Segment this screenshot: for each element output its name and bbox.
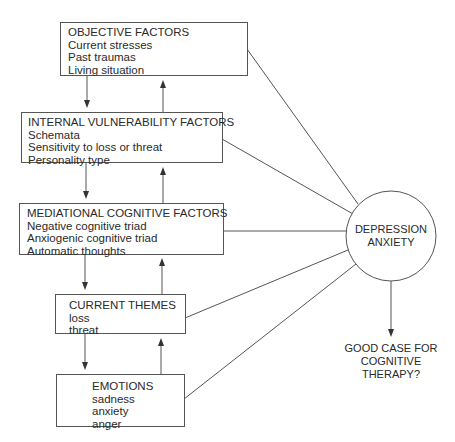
box-item: anxiety [92, 405, 184, 418]
box-current-themes: CURRENT THEMES loss threat [55, 294, 186, 334]
box-item: sadness [92, 393, 184, 406]
line-objective-to-center [247, 49, 358, 204]
box-objective-factors: OBJECTIVE FACTORS Current stresses Past … [60, 22, 248, 76]
box-item: Automatic thoughts [27, 245, 223, 258]
center-label: DEPRESSION ANXIETY [346, 223, 436, 249]
box-item: Sensitivity to loss or threat [28, 141, 222, 154]
box-item: Personality type [28, 154, 222, 167]
outcome-line1: GOOD CASE FOR [336, 342, 446, 355]
box-title: EMOTIONS [92, 380, 184, 393]
center-label-line2: ANXIETY [346, 236, 436, 249]
box-item: anger [92, 418, 184, 431]
box-item: loss [69, 312, 185, 325]
box-internal-vulnerability-factors: INTERNAL VULNERABILITY FACTORS Schemata … [21, 112, 223, 163]
box-item: Anxiogenic cognitive triad [27, 232, 223, 245]
box-item: Living situation [68, 64, 247, 77]
outcome-label: GOOD CASE FOR COGNITIVE THERAPY? [336, 342, 446, 381]
line-emotions-to-center [184, 264, 356, 399]
box-item: threat [69, 324, 185, 337]
outcome-line3: THERAPY? [336, 368, 446, 381]
box-title: OBJECTIVE FACTORS [68, 26, 247, 39]
box-title: MEDIATIONAL COGNITIVE FACTORS [27, 207, 223, 220]
box-item: Schemata [28, 129, 222, 142]
line-internal-to-center [222, 139, 353, 214]
center-label-line1: DEPRESSION [346, 223, 436, 236]
box-item: Current stresses [68, 39, 247, 52]
box-item: Negative cognitive triad [27, 220, 223, 233]
box-item: Past traumas [68, 51, 247, 64]
box-emotions: EMOTIONS sadness anxiety anger [56, 374, 185, 427]
outcome-line2: COGNITIVE [336, 355, 446, 368]
box-mediational-cognitive-factors: MEDIATIONAL COGNITIVE FACTORS Negative c… [19, 203, 224, 255]
line-themes-to-center [185, 250, 348, 318]
box-title: CURRENT THEMES [69, 299, 185, 312]
box-title: INTERNAL VULNERABILITY FACTORS [28, 116, 222, 129]
